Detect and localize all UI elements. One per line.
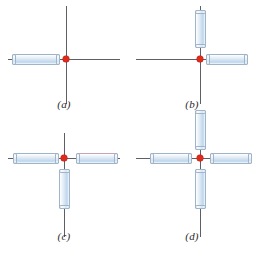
rod-down (59, 169, 70, 209)
center-marker (63, 56, 69, 62)
panel-b-label: (b) (128, 98, 256, 110)
panel-a: (a) (0, 0, 128, 132)
panel-d-stage (128, 133, 256, 243)
rod-left (150, 153, 192, 164)
rod-up (195, 10, 206, 48)
rod-right (76, 153, 118, 164)
panel-a-label: (a) (0, 98, 128, 110)
panel-c-label: (c) (0, 230, 128, 242)
panel-b-stage (128, 0, 256, 110)
panel-c: (c) (0, 133, 128, 265)
vertical-axis (66, 6, 67, 104)
rod-right (206, 54, 248, 65)
panel-a-stage (0, 0, 128, 110)
panel-b: (b) (128, 0, 256, 132)
rod-left (13, 153, 59, 164)
figure-root: (a) (b) (c) (0, 0, 256, 265)
center-marker (61, 155, 67, 161)
rod-left (12, 54, 60, 65)
panel-c-stage (0, 133, 128, 243)
panel-d-label: (d) (128, 230, 256, 242)
rod-up (195, 110, 206, 150)
panel-d: (d) (128, 133, 256, 265)
rod-down (195, 169, 206, 209)
rod-right (210, 153, 252, 164)
center-marker (197, 155, 203, 161)
center-marker (197, 56, 203, 62)
